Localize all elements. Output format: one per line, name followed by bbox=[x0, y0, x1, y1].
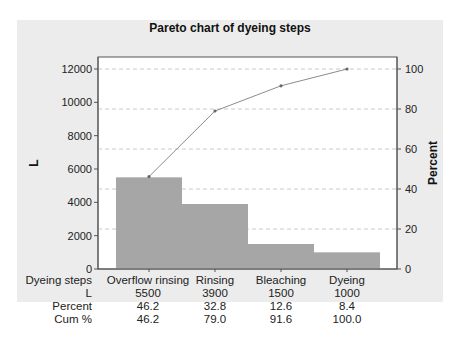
right-tick-label: 40 bbox=[405, 183, 417, 195]
bar-bleaching bbox=[248, 244, 314, 269]
left-tick-label: 6000 bbox=[68, 163, 92, 175]
cumulative-point bbox=[345, 67, 348, 70]
left-tick-label: 4000 bbox=[68, 196, 92, 208]
left-tick-label: 12000 bbox=[61, 63, 92, 75]
left-tick-label: 8000 bbox=[68, 130, 92, 142]
left-tick-label: 10000 bbox=[61, 96, 92, 108]
right-tick-label: 20 bbox=[405, 223, 417, 235]
bar-rinsing bbox=[182, 204, 248, 269]
table-row-header: L bbox=[86, 287, 92, 300]
y2-axis-label: Percent bbox=[426, 141, 440, 185]
table-row-header: Dyeing steps bbox=[26, 274, 92, 287]
table-cell: 1000 bbox=[302, 287, 392, 300]
right-tick-label: 100 bbox=[405, 63, 423, 75]
bar-overflow-rinsing bbox=[116, 177, 182, 269]
table-cell: Dyeing bbox=[302, 274, 392, 287]
cumulative-point bbox=[147, 175, 150, 178]
table-row-header: Cum % bbox=[54, 313, 92, 326]
data-table: Dyeing stepsOverflow rinsingRinsingBleac… bbox=[0, 274, 460, 334]
y-axis-label: L bbox=[27, 159, 41, 166]
table-cell: 8.4 bbox=[302, 300, 392, 313]
left-tick-label: 2000 bbox=[68, 230, 92, 242]
cumulative-point bbox=[279, 84, 282, 87]
right-tick-label: 60 bbox=[405, 143, 417, 155]
cumulative-point bbox=[213, 109, 216, 112]
bar-dyeing bbox=[314, 252, 380, 269]
table-row-header: Percent bbox=[52, 300, 92, 313]
table-cell: 100.0 bbox=[302, 313, 392, 326]
right-tick-label: 80 bbox=[405, 103, 417, 115]
